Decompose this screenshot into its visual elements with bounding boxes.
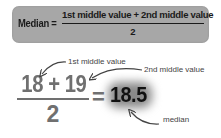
annotation-arrows (0, 0, 221, 138)
arrow-icon (131, 112, 159, 124)
arrow-icon (42, 62, 66, 74)
arrow-icon (92, 69, 142, 78)
